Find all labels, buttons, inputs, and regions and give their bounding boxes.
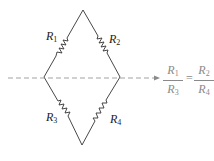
fraction-r1-over-r3: R1 R3: [162, 64, 184, 97]
arrow-head-icon: [154, 76, 160, 81]
denominator-r4: R4: [193, 83, 214, 97]
fraction-r2-over-r4: R2 R4: [193, 64, 214, 97]
label-r2: R2: [109, 33, 120, 47]
fraction-bar: [194, 80, 214, 81]
label-r4: R4: [110, 113, 121, 127]
fraction-bar: [163, 80, 183, 81]
denominator-r3: R3: [162, 83, 184, 97]
numerator-r2: R2: [193, 64, 214, 78]
label-r1: R1: [46, 30, 57, 44]
resistor-r4-wire: [82, 77, 120, 145]
equals-sign: =: [186, 72, 193, 84]
numerator-r1: R1: [162, 64, 184, 78]
wheatstone-bridge-diagram: R1 R2 R3 R4 R1 R3 = R2 R4: [0, 0, 214, 161]
label-r3: R3: [46, 111, 57, 125]
